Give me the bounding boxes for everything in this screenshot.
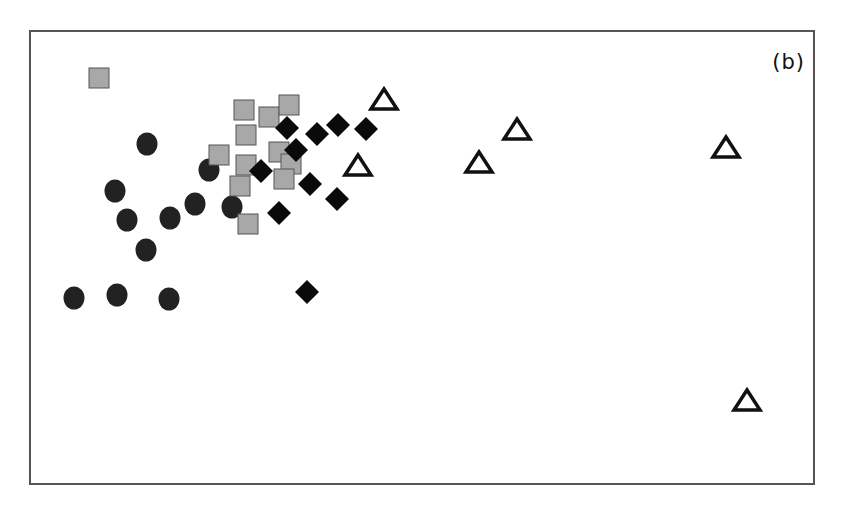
triangle-marker (713, 137, 739, 157)
triangle-marker (371, 89, 397, 109)
square-marker (279, 95, 299, 115)
plot-frame: (b) (29, 30, 815, 485)
diamond-marker (326, 113, 350, 137)
triangle-marker (504, 119, 530, 139)
diamond-marker (267, 201, 291, 225)
triangle-marker (466, 152, 492, 172)
diamond-marker (325, 187, 349, 211)
square-marker (236, 125, 256, 145)
square-marker (259, 107, 279, 127)
panel-label: (b) (772, 50, 805, 74)
diamond-marker (298, 172, 322, 196)
circle-marker (107, 284, 128, 307)
square-marker (89, 68, 109, 88)
square-marker (238, 214, 258, 234)
triangle-marker (734, 390, 760, 410)
circle-marker (136, 239, 157, 262)
series-black-diamonds (249, 113, 378, 304)
circle-marker (185, 193, 206, 216)
triangle-marker (345, 155, 371, 175)
diamond-marker (295, 280, 319, 304)
square-marker (209, 145, 229, 165)
circle-marker (160, 207, 181, 230)
diamond-marker (305, 122, 329, 146)
square-marker (230, 176, 250, 196)
diamond-marker (354, 117, 378, 141)
circle-marker (137, 133, 158, 156)
circle-marker (117, 209, 138, 232)
scatter-plot-area (31, 32, 813, 483)
square-marker (234, 100, 254, 120)
circle-marker (159, 288, 180, 311)
circle-marker (64, 287, 85, 310)
circle-marker (105, 180, 126, 203)
series-open-triangles (345, 89, 760, 410)
square-marker (274, 169, 294, 189)
